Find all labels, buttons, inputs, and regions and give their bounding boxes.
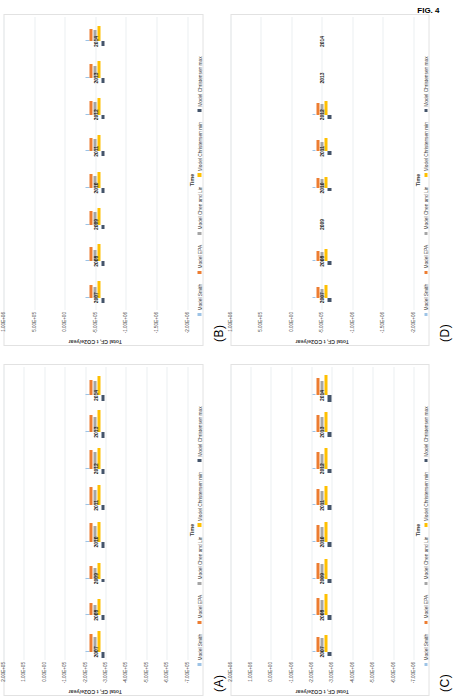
y-axis-tick-label: 2.00E+05 [1, 662, 6, 682]
bar [327, 505, 330, 509]
legend-item[interactable]: Model Smith [423, 284, 428, 316]
bar [101, 615, 104, 619]
y-axis-tick-label: -5.00E+05 [319, 312, 324, 333]
chart-legend: Model SmithModel EPAModel Chen and LinMo… [194, 364, 203, 696]
category-label: 2012 [318, 109, 324, 120]
bar-slot [312, 273, 315, 310]
bar [101, 188, 104, 193]
plot-area: 20072008200920102011201220132014 [230, 17, 414, 310]
legend-item[interactable]: Model Smith [197, 284, 202, 316]
legend-item[interactable]: Model Smith [423, 634, 428, 666]
bar-slot [101, 477, 104, 514]
bar-slot [312, 164, 315, 201]
bar-group: 2012 [230, 90, 414, 127]
y-axis-tick-label: 0.00E+00 [268, 662, 273, 682]
bar-slot [101, 367, 104, 404]
bar [312, 468, 315, 469]
y-axis-tick-label: -6.00E+06 [390, 662, 395, 683]
legend-swatch-icon [197, 271, 200, 274]
bar [101, 41, 104, 46]
legend-item[interactable]: Model Christensen min [197, 122, 202, 176]
legend-item[interactable]: Model Christensen max [423, 406, 428, 462]
bar [101, 396, 104, 401]
bar-group: 2014 [3, 17, 187, 54]
bar-group: 2010 [3, 514, 187, 551]
bar-slot [312, 237, 315, 274]
bar [312, 651, 315, 652]
bar-group: 2012 [230, 440, 414, 477]
category-label: 2007 [318, 646, 324, 657]
legend-item[interactable]: Model Chen and Lin [423, 187, 428, 235]
legend-item[interactable]: Model EPA [423, 595, 428, 624]
legend-item[interactable]: Model EPA [197, 595, 202, 624]
bar-slot [101, 237, 104, 274]
panel-letter: (A) [211, 675, 225, 693]
y-axis-tick-label: -1.50E+06 [153, 312, 158, 333]
legend-item[interactable]: Model Chen and Lin [197, 537, 202, 585]
bar [312, 578, 315, 579]
bar [101, 225, 104, 230]
y-axis-tick-label: -4.00E+06 [349, 662, 354, 683]
legend-label: Model Chen and Lin [423, 537, 428, 580]
bar-slot [312, 367, 315, 404]
category-label: 2009 [92, 573, 98, 584]
bar-slot [312, 404, 315, 441]
bar-slot [85, 550, 88, 587]
bar-slot [312, 623, 315, 660]
legend-item[interactable]: Model Christensen min [197, 472, 202, 526]
category-label: 2011 [318, 146, 324, 157]
bar-slot [101, 90, 104, 127]
bar-slot [85, 587, 88, 624]
category-label: 2012 [92, 109, 98, 120]
bar-slot [327, 273, 330, 310]
legend-swatch-icon [197, 459, 200, 462]
panel-B: Total CF, t CO2e/year1.00E+065.00E+050.0… [0, 0, 227, 350]
bar-group: 2007 [230, 273, 414, 310]
figure-root: Total CF, t CO2e/year2.00E+051.00E+050.0… [0, 0, 453, 700]
bar-slot [85, 477, 88, 514]
chart: Total CF, t CO2e/year2.00E+051.00E+050.0… [3, 364, 203, 696]
bar-slot [85, 237, 88, 274]
bar [101, 151, 104, 156]
legend-item[interactable]: Model Christensen min [423, 472, 428, 526]
bar-groups: 20072008200920102011201220132014 [230, 17, 414, 310]
legend-item[interactable]: Model Christensen max [197, 406, 202, 462]
legend-item[interactable]: Model Christensen min [423, 122, 428, 176]
legend-item[interactable]: Model Chen and Lin [423, 537, 428, 585]
category-label: 2007 [92, 292, 98, 303]
bar [85, 260, 88, 261]
bar [85, 578, 88, 579]
bar [327, 615, 330, 620]
bar-slot [101, 623, 104, 660]
bar [312, 297, 315, 298]
legend-item[interactable]: Model Christensen max [197, 56, 202, 112]
category-label: 2014 [92, 36, 98, 47]
legend-item[interactable]: Model Smith [197, 634, 202, 666]
bar-slot [327, 623, 330, 660]
bar-slot [85, 54, 88, 91]
bar [101, 469, 104, 475]
bar-group: 2014 [230, 17, 414, 54]
legend-item[interactable]: Model EPA [197, 245, 202, 274]
legend-item[interactable]: Model Chen and Lin [197, 187, 202, 235]
bar [312, 150, 315, 151]
bar-slot [327, 514, 330, 551]
category-label: 2007 [92, 646, 98, 657]
bar-slot [85, 200, 88, 237]
bar-group: 2011 [230, 127, 414, 164]
bar-group: 2009 [230, 550, 414, 587]
bar-slot [101, 514, 104, 551]
bar-slot [312, 200, 315, 237]
legend-label: Model Christensen max [423, 56, 428, 106]
y-axis-tick-label: -5.00E+05 [92, 312, 97, 333]
bar-group: 2010 [230, 514, 414, 551]
chart-body: Total CF, t CO2e/year2.00E+051.00E+050.0… [3, 364, 187, 696]
bar-group: 2008 [230, 237, 414, 274]
category-label: 2008 [92, 256, 98, 267]
bar-slot [101, 587, 104, 624]
y-axis-tick-label: -2.00E+06 [184, 312, 189, 333]
legend-swatch-icon [197, 582, 200, 585]
legend-item[interactable]: Model EPA [423, 245, 428, 274]
legend-swatch-icon [197, 232, 200, 235]
legend-item[interactable]: Model Christensen max [423, 56, 428, 112]
